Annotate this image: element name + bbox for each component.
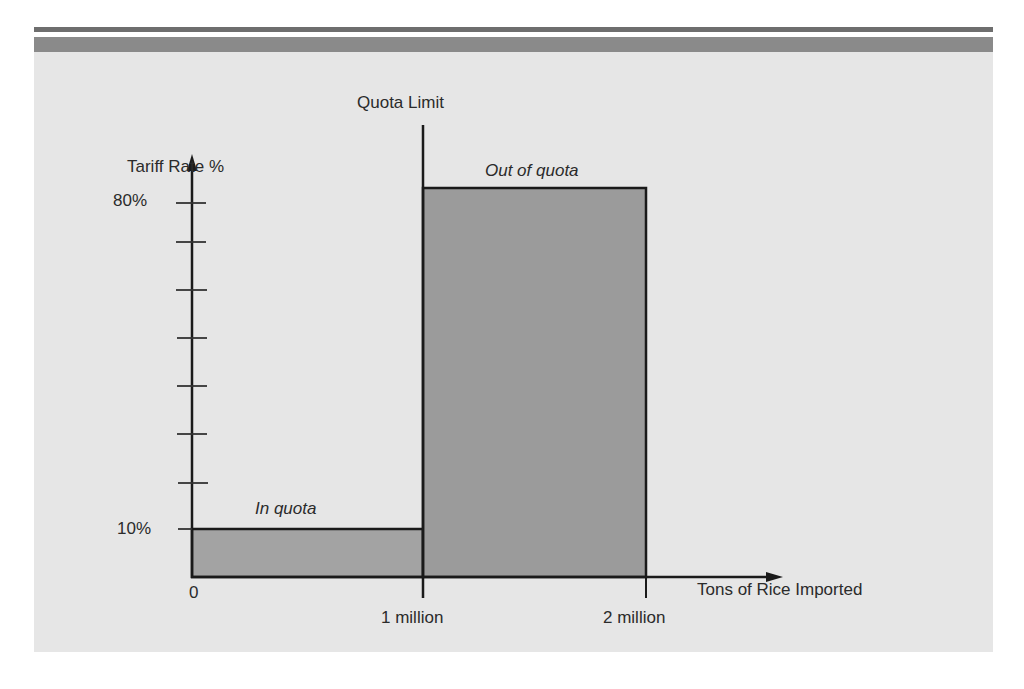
- x-tick-label-1-million: 1 million: [381, 608, 443, 628]
- in-quota-bar: [192, 529, 423, 577]
- y-tick-label-80: 80%: [113, 191, 147, 211]
- y-tick-label-10: 10%: [117, 519, 151, 539]
- x-tick-label-2-million: 2 million: [603, 608, 665, 628]
- quota-limit-label: Quota Limit: [357, 93, 444, 113]
- tariff-rate-quota-chart: [0, 0, 1024, 689]
- out-of-quota-bar: [423, 188, 646, 577]
- out-of-quota-label: Out of quota: [485, 161, 579, 181]
- y-axis-label: Tariff Rate %: [127, 157, 224, 177]
- x-tick-label-0: 0: [189, 583, 198, 603]
- in-quota-label: In quota: [255, 499, 316, 519]
- x-axis-label: Tons of Rice Imported: [697, 580, 862, 600]
